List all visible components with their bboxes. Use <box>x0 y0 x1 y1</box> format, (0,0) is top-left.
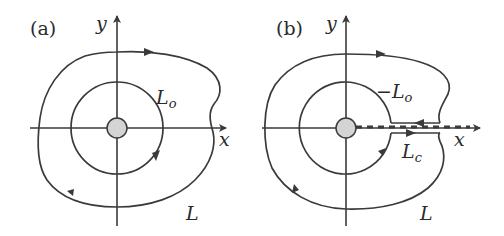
outer-contour-label: L <box>185 202 199 224</box>
singularity-disk <box>336 118 356 138</box>
cut-contour-label: Lc <box>401 140 423 165</box>
panel-a: (a) y x Lo L <box>30 12 230 226</box>
contour-diagram: (a) y x Lo L (b) y x <box>0 0 504 236</box>
panel-b: (b) y x −Lo Lc L <box>262 12 480 226</box>
outer-contour-L <box>265 54 450 209</box>
arrow-icon <box>376 50 386 58</box>
y-axis-label: y <box>95 12 107 34</box>
panel-a-label: (a) <box>30 17 56 39</box>
arrow-icon <box>406 129 416 137</box>
arrow-icon <box>292 184 299 193</box>
x-axis-label: x <box>219 128 230 150</box>
inner-contour-label: Lo <box>155 86 177 111</box>
inner-contour-label: −Lo <box>376 80 413 105</box>
outer-contour-label: L <box>419 202 433 224</box>
arrow-icon <box>144 48 154 56</box>
y-axis-label: y <box>325 12 337 34</box>
arrow-icon <box>67 189 74 196</box>
outer-contour-L <box>38 52 220 207</box>
singularity-disk <box>107 118 127 138</box>
x-axis-label: x <box>454 128 465 150</box>
panel-b-label: (b) <box>276 17 303 39</box>
